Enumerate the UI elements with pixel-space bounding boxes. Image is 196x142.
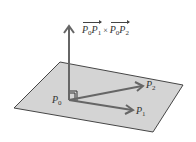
point-p2-label: P2 bbox=[146, 80, 156, 92]
p0-sub: 0 bbox=[58, 99, 62, 107]
vector-p0p2: P0P2 bbox=[110, 25, 129, 37]
p1-sub: 1 bbox=[142, 110, 146, 118]
cross-operator: × bbox=[103, 26, 108, 35]
cross-product-label: P0P1×P0P2 bbox=[82, 25, 129, 37]
vector-p0p1: P0P1 bbox=[82, 25, 101, 37]
vec1-end-sub: 1 bbox=[98, 29, 102, 37]
plane bbox=[14, 62, 183, 132]
p2-sub: 2 bbox=[152, 84, 156, 92]
vec2-end-sub: 2 bbox=[125, 29, 129, 37]
point-p1-label: P1 bbox=[136, 106, 146, 118]
point-p0-label: P0 bbox=[52, 95, 62, 107]
